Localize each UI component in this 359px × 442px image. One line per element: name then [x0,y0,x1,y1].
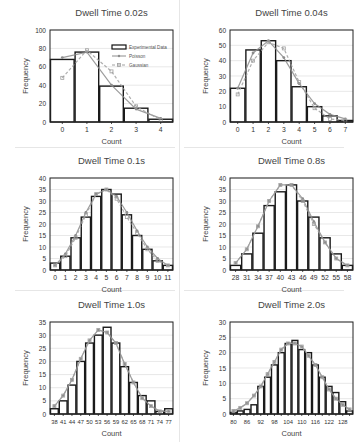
histogram-bar [306,353,312,414]
histogram-bar [323,116,337,122]
x-tick-label: 50 [86,419,92,425]
y-tick-label: 40 [219,57,227,64]
y-tick-label: 60 [39,63,47,70]
y-tick-label: 40 [39,82,47,89]
y-tick-label: 10 [39,384,47,391]
histogram-bar [103,327,111,414]
y-tick-label: 40 [219,175,227,182]
histogram-bar [307,107,321,122]
histogram-bar [100,86,124,122]
histogram-bar [81,217,90,270]
y-tick-label: 20 [39,358,47,365]
x-tick-label: 53 [95,419,101,425]
y-tick-label: 80 [39,45,47,52]
chart-title: Dwell Time 0.02s [75,7,148,18]
y-tick-label: 10 [219,380,227,387]
x-tick-label: 2 [267,126,271,133]
histogram-bar [231,265,241,270]
x-tick-label: 58 [344,274,352,281]
histogram-bar [251,405,257,414]
svg-text:Gaussian: Gaussian [129,63,149,68]
histogram-bar [313,365,319,414]
y-tick-label: 5 [42,255,46,262]
x-tick-label: 41 [60,419,66,425]
x-tick-label: 37 [265,274,273,281]
y-tick-label: 40 [39,175,47,182]
y-axis-label: Frequency [21,350,30,386]
y-tick-label: 20 [219,349,227,356]
x-tick-label: 49 [310,274,318,281]
histogram-bar [51,409,59,414]
histogram-bar [77,361,85,414]
chart-title: Dwell Time 0.8s [258,155,325,166]
y-tick-label: 30 [219,73,227,80]
x-tick-label: 11 [164,274,171,281]
histogram-bar [258,386,264,414]
x-axis-label: Count [101,137,122,146]
y-tick-label: 0 [222,267,226,274]
x-tick-label: 6 [328,126,332,133]
histogram-bar [275,192,285,270]
x-tick-label: 62 [121,419,127,425]
y-tick-label: 30 [39,332,47,339]
chart-title: Dwell Time 1.0s [78,299,145,310]
x-axis-label: Count [281,137,302,146]
y-tick-label: 15 [39,232,47,239]
chart-title: Dwell Time 0.04s [255,7,328,18]
x-tick-label: 98 [271,419,277,425]
histogram-bar [133,236,142,271]
histogram-bar [112,343,120,414]
y-tick-label: 50 [219,42,227,49]
x-tick-label: 0 [236,126,240,133]
y-tick-label: 10 [219,103,227,110]
x-tick-label: 65 [130,419,136,425]
x-tick-label: 56 [104,419,110,425]
chart-legend: Experimental DataPoissonGaussian [112,45,167,68]
y-axis-label: Frequency [201,58,210,94]
x-tick-label: 122 [324,419,334,425]
chart-panel-0.04s: Dwell Time 0.04s0102030405060Frequency01… [180,0,359,147]
x-tick-label: 0 [53,274,57,281]
x-tick-label: 92 [258,419,264,425]
histogram-bar [94,335,102,414]
x-tick-label: 10 [154,274,162,281]
x-tick-label: 3 [134,126,138,133]
y-tick-label: 15 [219,232,227,239]
histogram-bar [244,409,250,414]
x-tick-label: 7 [343,126,347,133]
x-tick-label: 128 [338,419,348,425]
histogram-bar [59,401,67,414]
y-tick-label: 15 [219,365,227,372]
y-tick-label: 0 [222,119,226,126]
y-axis-label: Frequency [201,350,210,386]
histogram-bar [92,196,101,270]
y-tick-label: 20 [219,221,227,228]
x-tick-label: 6 [115,274,119,281]
y-tick-label: 30 [219,198,227,205]
x-tick-label: 68 [139,419,145,425]
histogram-bar [86,343,94,414]
y-tick-label: 5 [222,395,226,402]
x-tick-label: 1 [63,274,67,281]
y-tick-label: 10 [219,244,227,251]
histogram-bar [331,254,341,270]
x-tick-label: 46 [299,274,307,281]
y-axis-label: Frequency [21,206,30,242]
y-tick-label: 20 [219,88,227,95]
histogram-bar [272,365,278,414]
y-tick-label: 0 [42,119,46,126]
x-tick-label: 80 [230,419,236,425]
x-tick-label: 4 [159,126,163,133]
histogram-bar [292,340,298,414]
x-tick-label: 38 [51,419,57,425]
y-tick-label: 20 [39,221,47,228]
x-tick-label: 74 [157,419,164,425]
y-tick-label: 15 [39,371,47,378]
x-tick-label: 59 [113,419,119,425]
chart-panel-0.02s: Dwell Time 0.02s020406080100Frequency012… [0,0,179,147]
x-tick-label: 3 [282,126,286,133]
chart-panel-1.0s: Dwell Time 1.0s05101520253035Frequency38… [0,292,179,439]
histogram-bar [319,377,325,414]
x-tick-label: 5 [104,274,108,281]
chart-title: Dwell Time 2.0s [258,299,325,310]
